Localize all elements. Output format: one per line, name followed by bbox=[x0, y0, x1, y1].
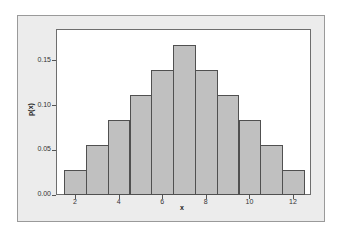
x-tick-label: 8 bbox=[196, 198, 216, 205]
bar-x-9 bbox=[217, 95, 240, 195]
bar-x-10 bbox=[239, 120, 262, 195]
bar-x-12 bbox=[282, 170, 305, 195]
x-tick-label: 6 bbox=[152, 198, 172, 205]
x-tick-label: 4 bbox=[109, 198, 129, 205]
bar-x-5 bbox=[130, 95, 153, 195]
bar-x-8 bbox=[195, 70, 218, 195]
y-tick bbox=[52, 195, 56, 196]
y-tick-label: 0.05 bbox=[21, 145, 51, 152]
x-tick-label: 2 bbox=[65, 198, 85, 205]
bar-x-3 bbox=[86, 145, 109, 195]
y-tick bbox=[52, 60, 56, 61]
x-tick-label: 10 bbox=[239, 198, 259, 205]
y-tick bbox=[52, 150, 56, 151]
y-axis-title: p(x) bbox=[27, 103, 34, 116]
y-tick-label: 0.00 bbox=[21, 190, 51, 197]
y-tick-label: 0.15 bbox=[21, 56, 51, 63]
y-tick bbox=[52, 105, 56, 106]
bar-x-6 bbox=[151, 70, 174, 195]
y-tick-label: 0.10 bbox=[21, 101, 51, 108]
bar-x-11 bbox=[260, 145, 283, 195]
x-tick-label: 12 bbox=[283, 198, 303, 205]
bar-x-2 bbox=[64, 170, 87, 195]
bar-x-4 bbox=[108, 120, 131, 195]
x-axis-title: x bbox=[180, 204, 184, 211]
bar-x-7 bbox=[173, 45, 196, 195]
